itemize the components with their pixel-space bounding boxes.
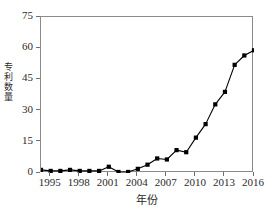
y-axis-title: 专利数量 — [2, 62, 15, 102]
patent-count-line-chart: 01530456075 1995199820012004200720102013… — [0, 0, 271, 221]
y-tick-label: 60 — [22, 40, 33, 53]
data-point-marker — [155, 156, 159, 160]
y-tick-label: 45 — [22, 71, 33, 84]
x-tick-label: 2010 — [179, 176, 211, 189]
data-point-marker — [184, 150, 188, 154]
data-point-marker — [145, 163, 149, 167]
data-series-line — [41, 17, 254, 173]
y-tick-label: 0 — [28, 165, 34, 178]
plot-area — [40, 16, 253, 172]
series-line — [41, 50, 254, 172]
data-point-marker — [213, 102, 217, 106]
x-tick-label: 2004 — [121, 176, 153, 189]
x-tick-label: 2013 — [208, 176, 240, 189]
data-point-marker — [136, 167, 140, 171]
data-point-marker — [223, 90, 227, 94]
x-tick-label: 2007 — [150, 176, 182, 189]
data-point-marker — [203, 122, 207, 126]
x-tick-label: 2016 — [237, 176, 269, 189]
data-point-marker — [194, 136, 198, 140]
data-point-marker — [242, 53, 246, 57]
y-tick-label: 75 — [22, 9, 33, 22]
x-tick-label: 1995 — [34, 176, 66, 189]
data-point-marker — [107, 165, 111, 169]
x-axis: 19951998200120042007201020132016 — [40, 172, 253, 194]
data-point-marker — [233, 63, 237, 67]
x-tick-label: 2001 — [92, 176, 124, 189]
data-point-marker — [252, 48, 254, 52]
data-point-marker — [165, 157, 169, 161]
x-axis-title: 年份 — [40, 194, 253, 207]
data-point-marker — [174, 148, 178, 152]
y-tick-label: 15 — [22, 134, 33, 147]
x-tick-label: 1998 — [63, 176, 95, 189]
y-tick-label: 30 — [22, 103, 33, 116]
